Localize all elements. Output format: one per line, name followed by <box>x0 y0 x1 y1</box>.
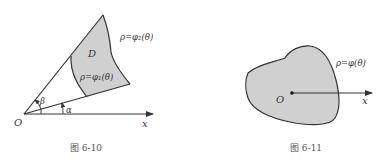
inner-curve-label: ρ=φ₁(θ) <box>79 72 113 82</box>
x-axis-label: x <box>362 95 368 106</box>
curve-label: ρ=φ(θ) <box>335 58 366 68</box>
region-d <box>71 15 130 97</box>
x-axis-label: x <box>142 118 148 129</box>
alpha-label: α <box>66 105 72 115</box>
caption-fig-6-10: 图 6-10 <box>70 143 102 153</box>
figure-6-11: O x ρ=φ(θ) 图 6-11 <box>246 46 372 153</box>
outer-curve-label: ρ=φ₂(θ) <box>119 32 153 42</box>
origin-label: O <box>14 117 22 128</box>
angle-arc-alpha <box>62 103 63 114</box>
region-label: D <box>87 48 96 59</box>
beta-label: β <box>39 96 45 106</box>
origin-label: O <box>276 94 284 105</box>
diagram-canvas: O x D ρ=φ₂(θ) ρ=φ₁(θ) β α 图 6-10 O x ρ=φ… <box>0 0 385 160</box>
caption-fig-6-11: 图 6-11 <box>290 143 322 153</box>
figure-6-10: O x D ρ=φ₂(θ) ρ=φ₁(θ) β α 图 6-10 <box>14 15 153 153</box>
closed-region <box>246 46 339 125</box>
